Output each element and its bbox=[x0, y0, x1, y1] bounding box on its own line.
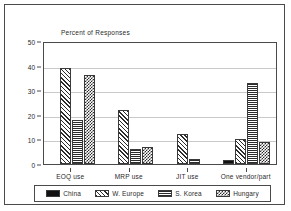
legend-item: Hungary bbox=[216, 190, 259, 197]
bar-group bbox=[220, 43, 279, 164]
plot-area bbox=[43, 42, 277, 165]
y-tick-mark bbox=[37, 42, 41, 43]
legend-label: China bbox=[63, 190, 81, 197]
legend-item: S. Korea bbox=[158, 190, 202, 197]
figure-frame: Percent of Responses 01020304050 EOQ use… bbox=[4, 4, 285, 205]
x-tick-mark bbox=[187, 168, 188, 172]
x-tick-label: One vendor/part bbox=[221, 173, 271, 180]
legend-item: China bbox=[46, 190, 81, 197]
bar-group bbox=[103, 43, 162, 164]
x-tick-label: EOQ use bbox=[56, 173, 84, 180]
y-tick-label: 0 bbox=[31, 162, 35, 169]
y-axis: 01020304050 bbox=[19, 35, 41, 175]
checkerboard-fill bbox=[216, 190, 230, 197]
y-tick-label: 30 bbox=[28, 88, 35, 95]
bar bbox=[247, 83, 258, 164]
diagonal-hatch-fill bbox=[95, 190, 109, 197]
y-tick-mark bbox=[37, 91, 41, 92]
y-tick-label: 40 bbox=[28, 63, 35, 70]
x-axis: EOQ useMRP useJIT useOne vendor/part bbox=[43, 168, 277, 180]
chart-title: Percent of Responses bbox=[61, 29, 130, 36]
y-tick-mark bbox=[37, 165, 41, 166]
bar bbox=[223, 160, 234, 164]
x-tick-mark bbox=[129, 168, 130, 172]
y-tick-label: 20 bbox=[28, 112, 35, 119]
solid-fill bbox=[46, 190, 60, 197]
bar bbox=[72, 120, 83, 164]
bar bbox=[142, 147, 153, 164]
y-tick-label: 50 bbox=[28, 39, 35, 46]
legend-label: W. Europe bbox=[112, 190, 144, 197]
bar bbox=[130, 149, 141, 164]
grid-hatch-fill bbox=[158, 190, 172, 197]
bar bbox=[118, 110, 129, 164]
bar-group bbox=[44, 43, 103, 164]
bar bbox=[259, 142, 270, 164]
bar bbox=[177, 134, 188, 164]
bar bbox=[84, 75, 95, 164]
y-tick-mark bbox=[37, 115, 41, 116]
y-tick-label: 10 bbox=[28, 137, 35, 144]
y-tick-mark bbox=[37, 66, 41, 67]
x-tick-mark bbox=[70, 168, 71, 172]
bar-group bbox=[161, 43, 220, 164]
x-tick-mark bbox=[246, 168, 247, 172]
y-tick-mark bbox=[37, 140, 41, 141]
bar bbox=[189, 159, 200, 164]
legend-item: W. Europe bbox=[95, 190, 144, 197]
chart-legend: ChinaW. EuropeS. KoreaHungary bbox=[34, 185, 271, 202]
legend-label: S. Korea bbox=[175, 190, 202, 197]
x-tick-label: MRP use bbox=[115, 173, 143, 180]
bar bbox=[235, 139, 246, 164]
bar bbox=[60, 68, 71, 164]
bars-layer bbox=[44, 43, 276, 164]
x-tick-label: JIT use bbox=[176, 173, 199, 180]
legend-label: Hungary bbox=[233, 190, 259, 197]
